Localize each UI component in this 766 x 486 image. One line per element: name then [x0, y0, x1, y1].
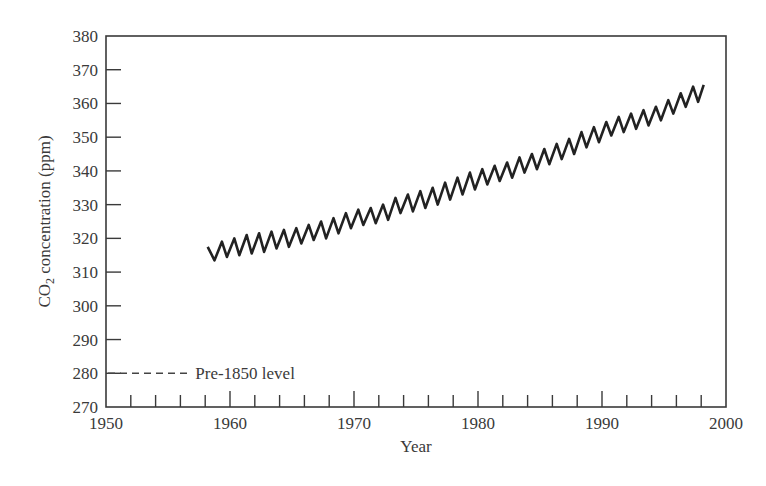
y-tick-label: 380 [73, 27, 99, 46]
pre-1850-label: Pre-1850 level [195, 364, 295, 383]
y-tick-label: 300 [73, 297, 99, 316]
y-tick-label: 310 [73, 263, 99, 282]
x-tick-label: 1960 [213, 414, 247, 433]
y-axis-title: CO2 concentration (ppm) [35, 135, 57, 307]
co2-chart: 270280290300310320330340350360370380 195… [0, 0, 766, 486]
plot-frame [106, 36, 726, 407]
y-tick-label: 280 [73, 364, 99, 383]
y-tick-label: 350 [73, 128, 99, 147]
x-axis: 195019601970198019902000 [89, 391, 743, 433]
y-tick-label: 360 [73, 94, 99, 113]
y-tick-label: 290 [73, 331, 99, 350]
y-axis-title-post: concentration (ppm) [35, 135, 54, 278]
y-tick-label: 320 [73, 229, 99, 248]
x-tick-label: 1950 [89, 414, 123, 433]
x-tick-label: 2000 [709, 414, 743, 433]
y-axis-title-pre: CO [35, 284, 54, 308]
y-tick-label: 340 [73, 162, 99, 181]
x-tick-label: 1970 [337, 414, 371, 433]
x-tick-label: 1980 [461, 414, 495, 433]
x-tick-label: 1990 [585, 414, 619, 433]
y-tick-label: 370 [73, 61, 99, 80]
x-axis-title: Year [400, 437, 432, 456]
y-axis: 270280290300310320330340350360370380 [73, 27, 122, 417]
co2-line [208, 85, 704, 260]
y-tick-label: 330 [73, 196, 99, 215]
